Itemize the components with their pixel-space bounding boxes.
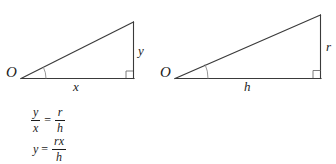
- fraction-denominator: h: [54, 151, 64, 164]
- equals-sign: =: [44, 114, 51, 126]
- fraction-rx-over-h: rx h: [52, 135, 66, 163]
- right-triangle-right-angle-marker: [313, 71, 321, 79]
- figure-canvas: O x y O h r y x = r h y = rx h: [0, 0, 336, 164]
- equation-solved-for-y: y = rx h: [33, 135, 67, 163]
- fraction-numerator: r: [56, 106, 65, 119]
- left-triangle-height-label: y: [138, 44, 144, 57]
- fraction-r-over-h: r h: [55, 106, 65, 134]
- equation-proportion: y x = r h: [30, 106, 66, 134]
- left-triangle-vertex-label: O: [6, 65, 17, 80]
- right-triangle-vertex-label: O: [160, 65, 171, 80]
- left-triangle-hypotenuse: [21, 22, 134, 79]
- right-triangle-base-label: h: [244, 80, 251, 93]
- right-triangle-height-label: r: [326, 40, 331, 53]
- left-term: y: [33, 143, 38, 155]
- right-triangle-angle-arc: [205, 64, 208, 78]
- fraction-denominator: x: [31, 122, 40, 135]
- fraction-numerator: rx: [52, 135, 66, 148]
- fraction-numerator: y: [31, 106, 40, 119]
- right-triangle-hypotenuse: [175, 15, 321, 79]
- equals-sign: =: [41, 143, 48, 155]
- fraction-y-over-x: y x: [31, 106, 40, 134]
- left-triangle-angle-arc: [43, 67, 46, 78]
- left-triangle-right-angle-marker: [126, 71, 133, 78]
- right-triangle: [175, 15, 321, 79]
- left-triangle-base-label: x: [73, 80, 79, 93]
- fraction-denominator: h: [55, 122, 65, 135]
- left-triangle: [21, 22, 134, 79]
